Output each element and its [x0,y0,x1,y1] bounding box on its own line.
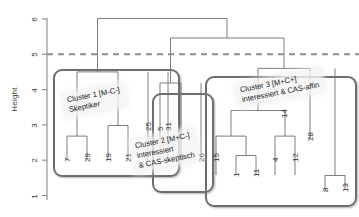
leaf-label-13: 13 [341,176,350,192]
leaf-label-28: 28 [306,125,315,141]
leaf-label-5: 5 [156,115,165,131]
leaf-label-1: 1 [232,161,241,177]
leaf-label-12: 12 [291,146,300,162]
leaf-label-8: 8 [321,176,330,192]
leaf-label-7: 7 [63,146,72,162]
leaf-label-25: 25 [144,115,153,131]
leaf-label-15: 15 [212,146,221,162]
y-tick-4: 4 [30,83,39,97]
y-axis-title: Height [10,70,19,130]
y-axis-ticks [42,19,47,196]
y-tick-1: 1 [30,189,39,203]
leaf-label-4: 4 [271,146,280,162]
leaf-label-31: 31 [164,115,173,131]
y-tick-2: 2 [30,154,39,168]
leaf-label-14: 14 [280,102,289,118]
leaf-label-11: 11 [252,161,261,177]
leaf-label-29: 29 [83,146,92,162]
y-tick-5: 5 [30,48,39,62]
y-tick-6: 6 [30,13,39,27]
leaf-label-19: 19 [104,146,113,162]
y-tick-3: 3 [30,118,39,132]
